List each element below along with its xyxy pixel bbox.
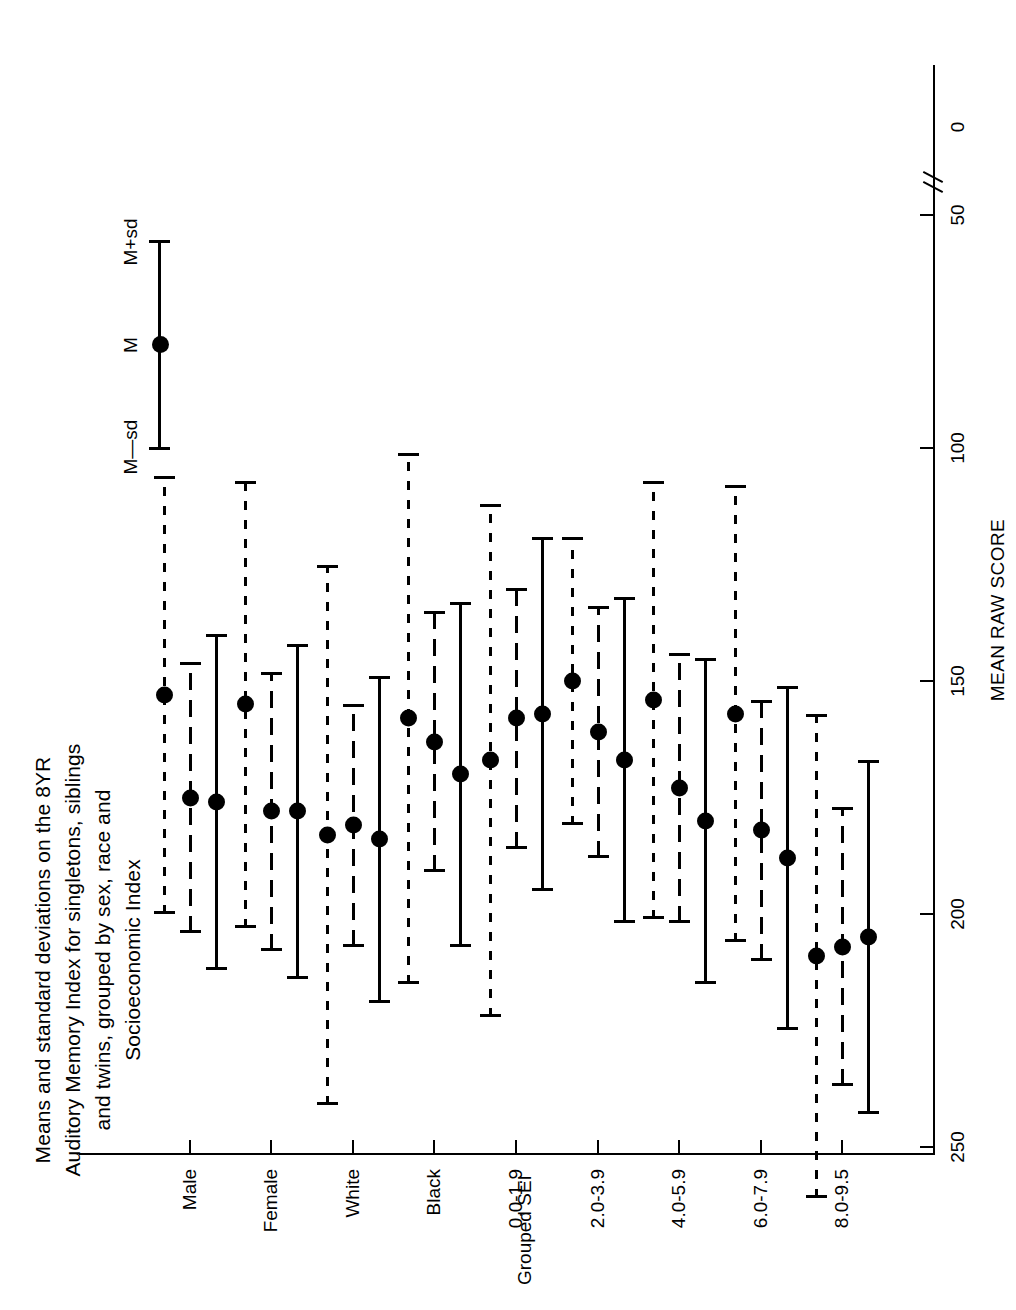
- error-bar-cap-upper: [777, 1028, 798, 1031]
- mean-marker-dot: [860, 929, 877, 946]
- value-axis-tick: [920, 913, 935, 915]
- category-axis-tick: [352, 1140, 354, 1155]
- mean-marker-dot: [452, 766, 469, 783]
- category-axis-label: 6.0-7.9: [750, 1169, 772, 1228]
- error-bar-cap-upper: [206, 967, 227, 970]
- error-bar-cap-lower: [614, 597, 635, 600]
- category-axis-label: Male: [179, 1169, 201, 1210]
- value-axis-tick-label: 0: [947, 122, 969, 133]
- value-axis-tick-label: 250: [947, 1131, 969, 1163]
- category-axis-tick: [433, 1140, 435, 1155]
- mean-marker-dot: [400, 710, 417, 727]
- value-axis-tick: [920, 680, 935, 682]
- error-bar-cap-upper: [588, 855, 609, 858]
- error-bar-cap-lower: [532, 537, 553, 540]
- error-bar-cap-lower: [751, 700, 772, 703]
- error-bar-cap-upper: [317, 1102, 338, 1105]
- category-axis-tick: [678, 1140, 680, 1155]
- error-bar-cap-lower: [669, 653, 690, 656]
- error-bar-cap-upper: [532, 888, 553, 891]
- error-bar-cap-lower: [858, 760, 879, 763]
- error-bar-cap-upper: [343, 944, 364, 947]
- error-bar-cap-lower: [777, 686, 798, 689]
- error-bar-cap-upper: [369, 1000, 390, 1003]
- category-axis-label: 2.0-3.9: [587, 1169, 609, 1228]
- error-bar-cap-upper: [235, 925, 256, 928]
- value-axis-tick: [920, 1146, 935, 1148]
- error-bar-cap-lower: [643, 481, 664, 484]
- mean-marker-dot: [208, 794, 225, 811]
- value-axis-tick-label: 100: [947, 432, 969, 464]
- marker-legend-dot: [152, 336, 169, 353]
- error-bar-cap-lower: [424, 611, 445, 614]
- error-bar-cap-upper: [261, 948, 282, 951]
- category-axis-label: Female: [260, 1169, 282, 1232]
- error-bar-cap-upper: [154, 911, 175, 914]
- category-axis-tick: [760, 1140, 762, 1155]
- error-bar-cap-lower: [154, 476, 175, 479]
- error-bar-cap-lower: [180, 662, 201, 665]
- error-bar-cap-lower: [343, 704, 364, 707]
- mean-marker-dot: [482, 752, 499, 769]
- error-bar-cap-upper: [398, 981, 419, 984]
- plot-area: Grouped SEI MEAN RAW SCORE 2502001501005…: [115, 65, 935, 1155]
- error-bar-cap-upper: [614, 920, 635, 923]
- mean-marker-dot: [616, 752, 633, 769]
- chart-title-line-2: Auditory Memory Index for singletons, si…: [58, 680, 88, 1240]
- value-axis-line: [933, 65, 935, 1155]
- category-axis-tick: [189, 1140, 191, 1155]
- mean-marker-dot: [156, 686, 173, 703]
- category-axis-line: [79, 1153, 935, 1155]
- mean-marker-dot: [808, 947, 825, 964]
- mean-marker-dot: [727, 705, 744, 722]
- error-bar-cap-lower: [506, 588, 527, 591]
- error-bar-cap-upper: [424, 869, 445, 872]
- mean-marker-dot: [426, 733, 443, 750]
- error-bar-cap-lower: [806, 714, 827, 717]
- marker-legend-cap-lower: [149, 447, 170, 450]
- value-axis-tick-label: 200: [947, 898, 969, 930]
- mean-marker-dot: [590, 724, 607, 741]
- error-bar-cap-lower: [235, 481, 256, 484]
- mean-marker-dot: [753, 822, 770, 839]
- error-bar-cap-upper: [287, 976, 308, 979]
- error-bar-cap-upper: [669, 920, 690, 923]
- error-bar-cap-upper: [858, 1111, 879, 1114]
- error-bar-cap-lower: [832, 807, 853, 810]
- error-bar-cap-upper: [643, 916, 664, 919]
- mean-marker-dot: [371, 831, 388, 848]
- category-axis-label: White: [342, 1169, 364, 1218]
- value-axis-title: MEAN RAW SCORE: [987, 65, 1009, 1155]
- error-bar-cap-upper: [562, 822, 583, 825]
- mean-marker-dot: [834, 938, 851, 955]
- category-axis-tick: [597, 1140, 599, 1155]
- error-bar-cap-lower: [725, 485, 746, 488]
- error-bar-cap-upper: [751, 958, 772, 961]
- mean-marker-dot: [697, 812, 714, 829]
- error-bar-cap-upper: [180, 930, 201, 933]
- error-bar-cap-lower: [695, 658, 716, 661]
- mean-marker-dot: [345, 817, 362, 834]
- category-axis-tick: [270, 1140, 272, 1155]
- mean-marker-dot: [263, 803, 280, 820]
- error-bar-cap-upper: [695, 981, 716, 984]
- error-bar-cap-lower: [450, 602, 471, 605]
- marker-legend-label-center: M: [120, 337, 142, 353]
- category-axis-label: 4.0-5.9: [668, 1169, 690, 1228]
- error-bar-cap-upper: [832, 1083, 853, 1086]
- error-bar-cap-lower: [480, 504, 501, 507]
- axis-break-icon: [922, 167, 942, 193]
- marker-legend-cap-upper: [149, 240, 170, 243]
- category-axis-tick: [515, 1140, 517, 1155]
- mean-marker-dot: [508, 710, 525, 727]
- error-bar-cap-lower: [206, 634, 227, 637]
- error-bar-cap-lower: [398, 453, 419, 456]
- error-bar-cap-upper: [480, 1014, 501, 1017]
- value-axis-tick: [920, 214, 935, 216]
- error-bar-cap-upper: [725, 939, 746, 942]
- chart-title-line-3: and twins, grouped by sex, race and: [88, 680, 118, 1240]
- error-bar-cap-lower: [317, 565, 338, 568]
- error-bar-cap-lower: [261, 672, 282, 675]
- mean-marker-dot: [671, 780, 688, 797]
- category-axis-label: Black: [423, 1169, 445, 1215]
